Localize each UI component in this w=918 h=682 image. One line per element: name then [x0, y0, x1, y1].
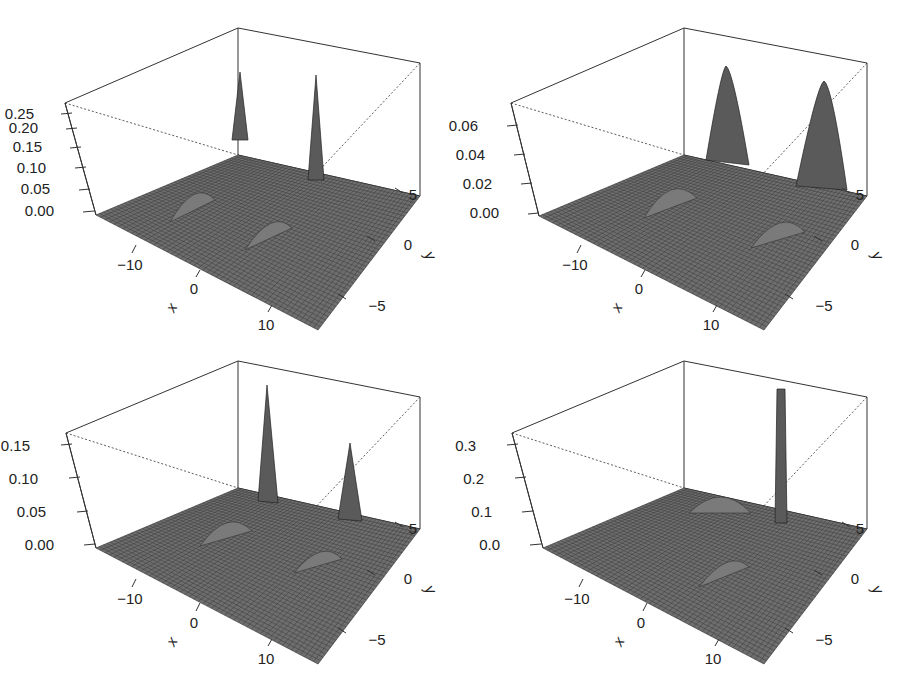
z-tick: 0.02 — [463, 175, 492, 192]
y-tick: 0 — [404, 236, 412, 253]
x-tick: 10 — [703, 316, 720, 333]
z-tick: 0.0 — [479, 536, 500, 553]
x-tick: 0 — [190, 614, 198, 631]
x-axis-title: x — [162, 633, 181, 649]
z-tick: 0.04 — [456, 146, 485, 163]
panel-bottom-left: 0.00 0.05 0.10 0.15 −10 0 10 x 5 0 −5 y — [0, 341, 459, 682]
x-tick: 0 — [190, 280, 198, 297]
figure: 0.00 0.05 0.10 0.15 0.20 0.25 −10 0 10 x… — [0, 0, 918, 682]
y-tick: −5 — [815, 297, 832, 314]
y-tick: −5 — [815, 631, 832, 648]
y-tick: 5 — [409, 186, 417, 203]
x-tick: −10 — [117, 256, 142, 273]
peak — [258, 385, 278, 503]
x-tick: 0 — [637, 614, 645, 631]
x-tick: 0 — [635, 280, 643, 297]
y-tick: 5 — [409, 520, 417, 537]
x-tick: −10 — [564, 590, 589, 607]
surface — [96, 72, 420, 330]
z-axis — [507, 103, 539, 216]
y-axis-title: y — [421, 581, 441, 598]
x-axis-title: x — [607, 299, 626, 315]
z-tick: 0.05 — [17, 503, 46, 520]
peak — [232, 72, 248, 140]
y-tick: 5 — [856, 186, 864, 203]
z-tick: 0.1 — [471, 503, 492, 520]
y-tick: 0 — [851, 570, 859, 587]
z-axis — [507, 433, 543, 548]
z-tick: 0.3 — [455, 437, 476, 454]
peak — [338, 443, 362, 521]
x-tick: −10 — [562, 256, 587, 273]
z-tick: 0.10 — [9, 470, 38, 487]
peak — [308, 75, 324, 180]
panel-top-right: 0.00 0.02 0.04 0.06 −10 0 10 x 5 0 −5 y — [459, 0, 918, 341]
z-tick: 0.15 — [1, 437, 30, 454]
x-tick: 10 — [705, 650, 722, 667]
x-tick: 10 — [258, 650, 275, 667]
x-axis-title: x — [162, 299, 181, 315]
z-tick: 0.15 — [13, 138, 42, 155]
y-tick: −5 — [368, 297, 385, 314]
z-tick: 0.2 — [463, 470, 484, 487]
y-axis-title: y — [868, 581, 888, 598]
x-axis-title: x — [609, 633, 628, 649]
y-axis-title: y — [868, 247, 888, 264]
z-tick: 0.06 — [449, 117, 478, 134]
z-tick: 0.00 — [25, 202, 54, 219]
panel-top-left: 0.00 0.05 0.10 0.15 0.20 0.25 −10 0 10 x… — [0, 0, 459, 341]
surface — [543, 389, 867, 664]
z-tick: 0.00 — [25, 536, 54, 553]
y-tick: −5 — [368, 631, 385, 648]
peak — [796, 81, 847, 190]
z-tick: 0.00 — [470, 204, 499, 221]
z-tick: 0.25 — [5, 105, 34, 122]
z-axis — [61, 433, 96, 548]
surface — [539, 66, 867, 330]
y-tick: 5 — [856, 520, 864, 537]
peak — [775, 389, 787, 523]
y-axis-title: y — [421, 247, 441, 264]
panel-bottom-right: 0.0 0.1 0.2 0.3 −10 0 10 x 5 0 −5 y — [459, 341, 918, 682]
x-tick: 10 — [258, 316, 275, 333]
z-tick: 0.10 — [17, 159, 46, 176]
peak — [706, 66, 749, 165]
surface — [96, 385, 420, 664]
z-tick: 0.05 — [21, 180, 50, 197]
x-tick: −10 — [117, 590, 142, 607]
y-tick: 0 — [404, 570, 412, 587]
y-tick: 0 — [851, 236, 859, 253]
z-axis — [61, 103, 96, 215]
